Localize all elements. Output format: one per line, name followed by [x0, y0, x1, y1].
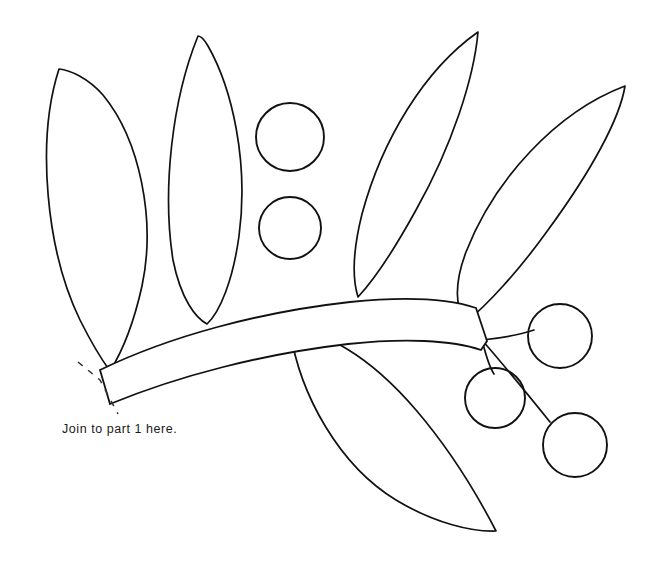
- join-note: Join to part 1 here.: [62, 420, 322, 438]
- leaf-group: [47, 32, 625, 531]
- stem-to-lower-right-berry: [482, 340, 550, 422]
- caption-layer: Join to part 1 here.: [62, 420, 322, 442]
- berry-upper-right[interactable]: [528, 304, 592, 368]
- leaf-1-far-left[interactable]: [47, 69, 147, 371]
- leaf-4-far-right[interactable]: [457, 86, 625, 322]
- berry-middle-right[interactable]: [465, 368, 525, 428]
- berry-upper-left[interactable]: [256, 103, 324, 171]
- leaf-3-center-right[interactable]: [354, 32, 478, 297]
- pattern-sheet: Join to part 1 here.: [0, 0, 652, 563]
- berry-lower-right[interactable]: [543, 413, 607, 477]
- tapered-curved-branch[interactable]: [100, 299, 487, 404]
- pattern-drawing-canvas: [0, 0, 652, 563]
- stem-to-upper-right-berry: [482, 330, 534, 340]
- berry-lower-left[interactable]: [259, 197, 321, 259]
- leaf-2-upright[interactable]: [169, 36, 242, 324]
